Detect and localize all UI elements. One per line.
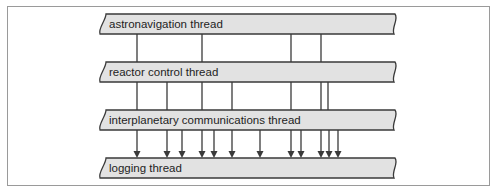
- arrowhead-icon: [179, 151, 186, 158]
- arrowhead-icon: [298, 151, 305, 158]
- thread-bar: reactor control thread: [100, 62, 396, 82]
- arrowhead-icon: [257, 151, 264, 158]
- thread-bar: astronavigation thread: [100, 14, 396, 34]
- arrowhead-icon: [326, 151, 333, 158]
- arrowhead-icon: [318, 151, 325, 158]
- arrowhead-icon: [134, 151, 141, 158]
- thread-diagram: astronavigation threadreactor control th…: [0, 0, 497, 193]
- arrowhead-icon: [199, 151, 206, 158]
- thread-label: reactor control thread: [109, 66, 218, 78]
- arrowhead-icon: [288, 151, 295, 158]
- thread-label: logging thread: [109, 162, 182, 174]
- arrowhead-icon: [335, 151, 342, 158]
- thread-label: interplanetary communications thread: [109, 114, 301, 126]
- thread-bar: interplanetary communications thread: [100, 110, 396, 130]
- thread-label: astronavigation thread: [109, 18, 223, 30]
- connections: [134, 34, 342, 158]
- arrowhead-icon: [211, 151, 218, 158]
- arrowhead-icon: [229, 151, 236, 158]
- arrowhead-icon: [164, 151, 171, 158]
- thread-bar: logging thread: [100, 158, 396, 178]
- thread-bars: astronavigation threadreactor control th…: [100, 14, 396, 178]
